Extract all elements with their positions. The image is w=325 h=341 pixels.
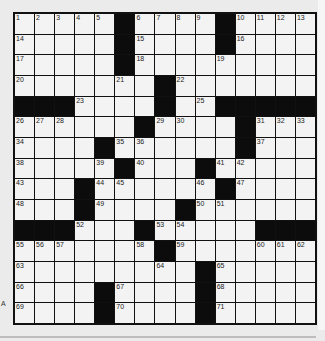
grid-cell[interactable] bbox=[236, 241, 255, 261]
grid-cell[interactable] bbox=[196, 241, 215, 261]
grid-cell[interactable]: 70 bbox=[115, 303, 134, 323]
grid-cell[interactable] bbox=[256, 76, 275, 96]
grid-cell[interactable] bbox=[236, 303, 255, 323]
grid-cell[interactable] bbox=[35, 200, 54, 220]
grid-cell[interactable] bbox=[256, 283, 275, 303]
grid-cell[interactable]: 59 bbox=[176, 241, 195, 261]
grid-cell[interactable]: 16 bbox=[236, 35, 255, 55]
grid-cell[interactable]: 10 bbox=[236, 14, 255, 34]
grid-cell[interactable] bbox=[155, 303, 174, 323]
grid-cell[interactable]: 62 bbox=[296, 241, 315, 261]
grid-cell[interactable]: 19 bbox=[216, 55, 235, 75]
grid-cell[interactable]: 4 bbox=[75, 14, 94, 34]
grid-cell[interactable]: 64 bbox=[155, 262, 174, 282]
grid-cell[interactable] bbox=[196, 35, 215, 55]
grid-cell[interactable] bbox=[276, 283, 295, 303]
grid-cell[interactable]: 40 bbox=[135, 159, 154, 179]
grid-cell[interactable] bbox=[95, 117, 114, 137]
grid-cell[interactable] bbox=[296, 55, 315, 75]
grid-cell[interactable] bbox=[176, 283, 195, 303]
grid-cell[interactable]: 26 bbox=[15, 117, 34, 137]
grid-cell[interactable] bbox=[55, 35, 74, 55]
grid-cell[interactable] bbox=[296, 159, 315, 179]
grid-cell[interactable] bbox=[256, 303, 275, 323]
grid-cell[interactable]: 30 bbox=[176, 117, 195, 137]
grid-cell[interactable] bbox=[236, 55, 255, 75]
grid-cell[interactable] bbox=[35, 303, 54, 323]
grid-cell[interactable] bbox=[95, 55, 114, 75]
grid-cell[interactable] bbox=[216, 117, 235, 137]
grid-cell[interactable] bbox=[176, 262, 195, 282]
grid-cell[interactable] bbox=[176, 138, 195, 158]
grid-cell[interactable] bbox=[216, 241, 235, 261]
grid-cell[interactable]: 29 bbox=[155, 117, 174, 137]
grid-cell[interactable] bbox=[55, 179, 74, 199]
grid-cell[interactable]: 9 bbox=[196, 14, 215, 34]
grid-cell[interactable]: 11 bbox=[256, 14, 275, 34]
grid-cell[interactable] bbox=[115, 117, 134, 137]
grid-cell[interactable] bbox=[155, 35, 174, 55]
grid-cell[interactable] bbox=[75, 117, 94, 137]
grid-cell[interactable] bbox=[95, 221, 114, 241]
grid-cell[interactable] bbox=[216, 138, 235, 158]
grid-cell[interactable]: 54 bbox=[176, 221, 195, 241]
grid-cell[interactable] bbox=[75, 262, 94, 282]
grid-cell[interactable] bbox=[296, 76, 315, 96]
grid-cell[interactable] bbox=[176, 35, 195, 55]
grid-cell[interactable] bbox=[276, 138, 295, 158]
grid-cell[interactable] bbox=[55, 303, 74, 323]
grid-cell[interactable]: 38 bbox=[15, 159, 34, 179]
grid-cell[interactable] bbox=[236, 221, 255, 241]
grid-cell[interactable]: 55 bbox=[15, 241, 34, 261]
grid-cell[interactable]: 49 bbox=[95, 200, 114, 220]
grid-cell[interactable] bbox=[135, 303, 154, 323]
grid-cell[interactable] bbox=[35, 138, 54, 158]
grid-cell[interactable]: 45 bbox=[115, 179, 134, 199]
grid-cell[interactable] bbox=[135, 76, 154, 96]
grid-cell[interactable]: 52 bbox=[75, 221, 94, 241]
grid-cell[interactable] bbox=[296, 283, 315, 303]
grid-cell[interactable] bbox=[256, 35, 275, 55]
grid-cell[interactable] bbox=[296, 303, 315, 323]
grid-cell[interactable] bbox=[256, 179, 275, 199]
grid-cell[interactable] bbox=[196, 138, 215, 158]
grid-cell[interactable] bbox=[196, 55, 215, 75]
grid-cell[interactable] bbox=[155, 200, 174, 220]
grid-cell[interactable] bbox=[296, 35, 315, 55]
grid-cell[interactable]: 65 bbox=[216, 262, 235, 282]
grid-cell[interactable] bbox=[115, 241, 134, 261]
grid-cell[interactable] bbox=[155, 55, 174, 75]
grid-cell[interactable]: 23 bbox=[75, 97, 94, 117]
grid-cell[interactable] bbox=[135, 179, 154, 199]
grid-cell[interactable]: 53 bbox=[155, 221, 174, 241]
grid-cell[interactable] bbox=[75, 303, 94, 323]
grid-cell[interactable] bbox=[256, 159, 275, 179]
grid-cell[interactable]: 27 bbox=[35, 117, 54, 137]
grid-cell[interactable] bbox=[95, 262, 114, 282]
grid-cell[interactable] bbox=[155, 159, 174, 179]
grid-cell[interactable] bbox=[55, 76, 74, 96]
grid-cell[interactable] bbox=[75, 241, 94, 261]
grid-cell[interactable] bbox=[75, 283, 94, 303]
grid-cell[interactable]: 60 bbox=[256, 241, 275, 261]
grid-cell[interactable]: 47 bbox=[236, 179, 255, 199]
grid-cell[interactable]: 25 bbox=[196, 97, 215, 117]
grid-cell[interactable]: 18 bbox=[135, 55, 154, 75]
grid-cell[interactable] bbox=[196, 221, 215, 241]
grid-cell[interactable]: 71 bbox=[216, 303, 235, 323]
grid-cell[interactable]: 48 bbox=[15, 200, 34, 220]
grid-cell[interactable] bbox=[296, 138, 315, 158]
grid-cell[interactable]: 69 bbox=[15, 303, 34, 323]
grid-cell[interactable] bbox=[35, 76, 54, 96]
grid-cell[interactable]: 12 bbox=[276, 14, 295, 34]
grid-cell[interactable]: 5 bbox=[95, 14, 114, 34]
grid-cell[interactable] bbox=[155, 138, 174, 158]
grid-cell[interactable]: 58 bbox=[135, 241, 154, 261]
grid-cell[interactable]: 43 bbox=[15, 179, 34, 199]
grid-cell[interactable]: 22 bbox=[176, 76, 195, 96]
grid-cell[interactable]: 36 bbox=[135, 138, 154, 158]
grid-cell[interactable]: 51 bbox=[216, 200, 235, 220]
grid-cell[interactable]: 13 bbox=[296, 14, 315, 34]
grid-cell[interactable] bbox=[55, 138, 74, 158]
grid-cell[interactable]: 33 bbox=[296, 117, 315, 137]
